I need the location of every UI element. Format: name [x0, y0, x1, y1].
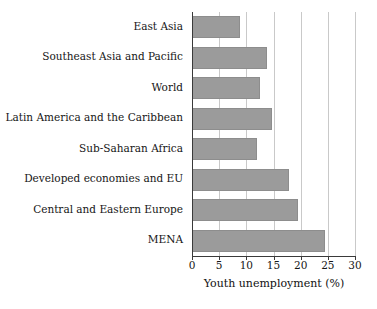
bar-row	[192, 43, 355, 74]
x-tick-label: 20	[294, 259, 307, 271]
bar-east-asia	[192, 16, 240, 38]
category-label: Central and Eastern Europe	[33, 203, 183, 215]
bar-row	[192, 226, 355, 257]
x-tick-label: 0	[189, 259, 196, 271]
bar-mena	[192, 230, 325, 252]
x-tick-label: 25	[321, 259, 334, 271]
bar-world	[192, 77, 260, 99]
chart-figure: East Asia Southeast Asia and Pacific Wor…	[0, 0, 377, 309]
x-tick-label: 30	[348, 259, 361, 271]
category-label: Southeast Asia and Pacific	[42, 50, 183, 62]
category-label: MENA	[148, 233, 183, 245]
bar-row	[192, 195, 355, 226]
y-axis-line	[192, 12, 193, 257]
category-axis-labels: East Asia Southeast Asia and Pacific Wor…	[0, 12, 188, 256]
x-axis-title: Youth unemployment (%)	[192, 277, 356, 290]
bar-southeast-asia-and-pacific	[192, 47, 267, 69]
bar-central-and-eastern-europe	[192, 199, 298, 221]
bar-row	[192, 134, 355, 165]
bar-row	[192, 104, 355, 135]
bar-row	[192, 73, 355, 104]
category-label: Sub-Saharan Africa	[79, 142, 183, 154]
x-tick-label: 15	[267, 259, 280, 271]
gridline	[355, 12, 356, 256]
category-label: World	[152, 81, 184, 93]
category-label: Developed economies and EU	[24, 172, 183, 184]
plot-area	[192, 12, 355, 256]
category-label: East Asia	[134, 20, 183, 32]
bar-latin-america-and-the-caribbean	[192, 108, 272, 130]
bar-row	[192, 165, 355, 196]
category-label: Latin America and the Caribbean	[6, 111, 184, 123]
bar-row	[192, 12, 355, 43]
x-tick-label: 5	[216, 259, 223, 271]
bar-sub-saharan-africa	[192, 138, 257, 160]
bar-developed-economies-and-eu	[192, 169, 289, 191]
x-tick-label: 10	[240, 259, 253, 271]
